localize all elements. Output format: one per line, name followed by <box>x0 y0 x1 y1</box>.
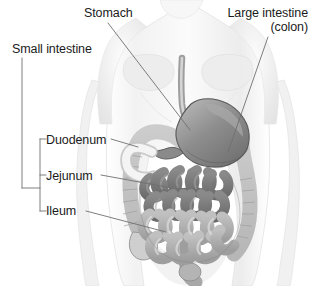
digestive-system-figure: Stomach Large intestine(colon) Small int… <box>0 0 312 286</box>
label-jejunum: Jejunum <box>46 170 93 184</box>
label-ileum: Ileum <box>46 205 76 219</box>
label-duodenum: Duodenum <box>46 134 106 148</box>
label-stomach: Stomach <box>84 7 133 21</box>
rectum-ampulla <box>179 263 201 281</box>
label-small-intestine: Small intestine <box>12 43 92 57</box>
label-large-intestine-line2: (colon) <box>270 20 308 34</box>
label-large-intestine-line1: Large intestine <box>227 6 308 20</box>
right-pectoral <box>202 54 253 90</box>
right-arm <box>276 80 299 286</box>
label-large-intestine: Large intestine(colon) <box>212 7 308 34</box>
left-pectoral <box>123 54 174 90</box>
